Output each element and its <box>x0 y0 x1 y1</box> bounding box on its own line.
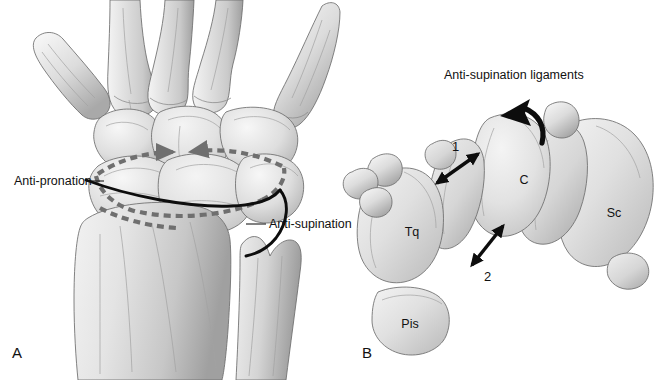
panel-b-heading: Anti-supination ligaments <box>444 68 584 82</box>
bone-label-triquetrum: Tq <box>405 225 420 239</box>
bone-label-capitate: C <box>519 173 528 187</box>
bone-dorsal-ridge <box>544 102 579 138</box>
bone-metacarpal-1 <box>33 32 110 119</box>
panel-b-letter: B <box>362 344 372 361</box>
anti-supination-label: Anti-supination <box>269 217 352 231</box>
bone-metacarpal-5 <box>273 3 340 129</box>
anti-pronation-label: Anti-pronation <box>14 174 92 188</box>
callout-anti-pronation: Anti-pronation <box>14 174 104 188</box>
panel-a-letter: A <box>12 344 22 361</box>
bone-label-scaphoid: Sc <box>607 206 622 220</box>
ligament-marker-2-label: 2 <box>484 269 491 284</box>
bone-pisiform: Pis <box>372 287 449 355</box>
panel-b: Anti-supination ligaments Sc C <box>343 68 653 361</box>
bone-label-pisiform: Pis <box>401 317 418 331</box>
bone-ulna <box>236 237 301 380</box>
bone-metacarpal-3 <box>148 0 194 115</box>
bone-triquetrum-a <box>236 154 304 223</box>
bone-radius <box>74 202 231 380</box>
ligament-marker-1-label: 1 <box>452 139 459 154</box>
anatomical-figure: Anti-pronation Anti-supination A Anti-su… <box>0 0 672 380</box>
panel-a: Anti-pronation Anti-supination A <box>12 0 352 380</box>
bone-metacarpal-4 <box>193 0 243 113</box>
figure-canvas: Anti-pronation Anti-supination A Anti-su… <box>0 0 672 380</box>
